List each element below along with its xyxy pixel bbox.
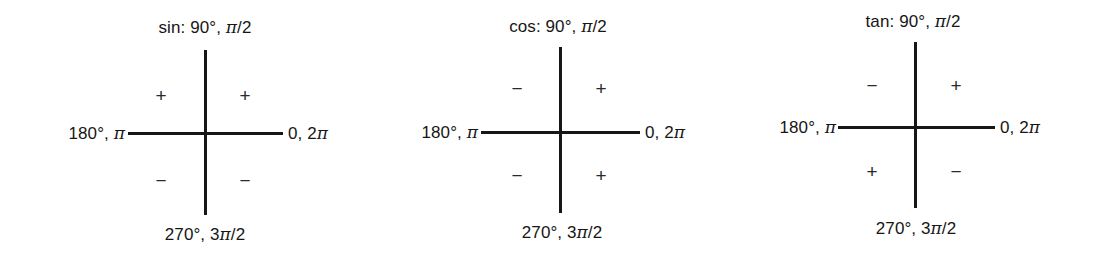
quadrant-sign-upper-right: + bbox=[950, 76, 961, 95]
axis-label-bottom: 270°, 3π/2 bbox=[165, 224, 245, 245]
axis-label-left: 180°, π bbox=[780, 117, 837, 138]
axis-label-top: cos: 90°, π/2 bbox=[509, 16, 607, 37]
axis-label-right: 0, 2π bbox=[288, 123, 328, 144]
axis-label-left: 180°, π bbox=[422, 122, 479, 143]
quadrant-sign-upper-right: + bbox=[595, 79, 606, 98]
horizontal-axis bbox=[128, 132, 283, 135]
quadrant-sign-lower-right: + bbox=[595, 166, 606, 185]
quadrant-sign-lower-left: − bbox=[511, 166, 522, 185]
trig-sign-quadrants-figure: sin: 90°, π/2 270°, 3π/2 180°, π 0, 2π +… bbox=[0, 0, 1102, 265]
axis-label-bottom: 270°, 3π/2 bbox=[522, 222, 602, 243]
quadrant-sign-lower-left: − bbox=[155, 171, 166, 190]
axis-label-top: sin: 90°, π/2 bbox=[158, 17, 251, 38]
axis-label-left: 180°, π bbox=[69, 123, 126, 144]
horizontal-axis bbox=[838, 126, 995, 129]
quadrant-sign-upper-left: − bbox=[866, 76, 877, 95]
horizontal-axis bbox=[481, 131, 640, 134]
axis-label-right: 0, 2π bbox=[1000, 117, 1040, 138]
quadrant-sign-upper-left: − bbox=[511, 79, 522, 98]
quadrant-sign-lower-right: − bbox=[950, 162, 961, 181]
quadrant-sign-lower-left: + bbox=[866, 162, 877, 181]
quadrant-sign-lower-right: − bbox=[239, 171, 250, 190]
quadrant-sign-upper-left: + bbox=[155, 86, 166, 105]
axis-label-bottom: 270°, 3π/2 bbox=[876, 218, 956, 239]
axis-label-top: tan: 90°, π/2 bbox=[866, 11, 961, 32]
quadrant-sign-upper-right: + bbox=[239, 86, 250, 105]
axis-label-right: 0, 2π bbox=[645, 122, 685, 143]
